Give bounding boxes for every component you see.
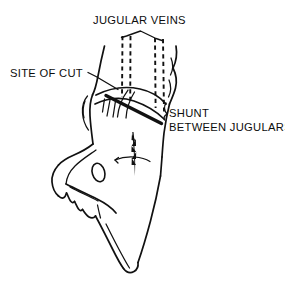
shunt-hatch-2 (113, 101, 116, 117)
skull-dorsal-curve (59, 144, 94, 165)
skull-jag-1 (59, 193, 67, 198)
right-jugular-wall-inner (155, 38, 156, 108)
eye-socket (90, 162, 107, 183)
skull-inner-contour (66, 150, 96, 184)
shunt-hatch-1 (107, 100, 110, 116)
label-site-of-cut: SITE OF CUT (10, 67, 83, 79)
label-shunt-line1: SHUNT (169, 107, 209, 119)
beak-tomium (106, 224, 130, 268)
skull-jag-4 (83, 210, 96, 218)
incision-group (115, 132, 150, 176)
beak-lower-contour (138, 176, 161, 263)
skull-jag-2 (67, 193, 75, 203)
neck-right-feather-detail-1 (171, 58, 173, 75)
skull-jag-3 (75, 202, 83, 211)
left-jugular-vein (122, 36, 131, 104)
skull-frontal-curve (52, 165, 59, 196)
incision-barb-5 (132, 158, 136, 165)
neck-left-contour-lower (90, 95, 93, 144)
neck-right-feather-detail-2 (169, 80, 171, 97)
diagram-canvas: JUGULAR VEINS SITE OF CUT SHUNT BETWEEN … (0, 0, 285, 287)
neck-left-contour-upper (93, 46, 105, 95)
anatomical-figure: JUGULAR VEINS SITE OF CUT SHUNT BETWEEN … (0, 0, 285, 287)
beak-culmen (96, 216, 124, 269)
label-shunt-line2: BETWEEN JUGULARS (169, 121, 285, 133)
incision-cross-vessel-arrowhead (115, 158, 119, 164)
site-of-cut-leader (88, 73, 118, 90)
jugular-veins-leader-bracket (122, 31, 163, 41)
beak-base-tick (98, 205, 101, 218)
jugular-veins-leader (122, 31, 163, 41)
beak-to-neck-contour (161, 157, 163, 176)
skull-group (52, 144, 116, 218)
jugal-bar-inner (70, 187, 98, 201)
label-jugular-veins: JUGULAR VEINS (93, 14, 186, 26)
beak-tip (124, 263, 139, 273)
jugular-veins-group (122, 36, 164, 112)
